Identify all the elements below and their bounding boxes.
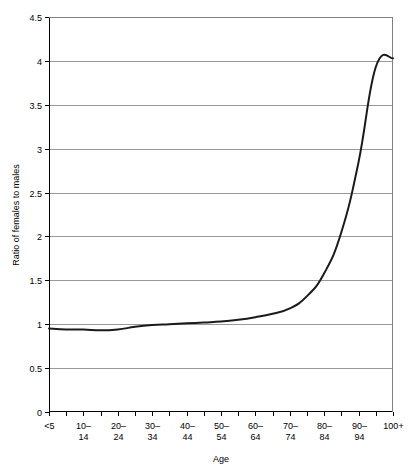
y-tick-label: 1.5 [29, 276, 42, 286]
x-tick-label-line2: 44 [182, 432, 192, 442]
y-axis-title: Ratio of females to males [11, 164, 21, 266]
x-tick-label: 70– [283, 421, 298, 431]
x-tick-label-line2: 54 [216, 432, 226, 442]
x-tick-label-line2: 84 [319, 432, 329, 442]
y-tick-label: 2.5 [29, 189, 42, 199]
y-tick-label: 3.5 [29, 101, 42, 111]
x-tick-label-line2: 74 [285, 432, 295, 442]
x-tick-label-line2: 14 [78, 432, 88, 442]
chart-container: 00.511.522.533.544.5 <510–1420–2430–3440… [0, 0, 413, 473]
y-tick-label: 1 [37, 320, 42, 330]
x-tick-label-line2: 64 [250, 432, 260, 442]
x-tick-label: 20– [111, 421, 126, 431]
y-tick-label: 4.5 [29, 13, 42, 23]
x-tick-label: 90– [352, 421, 367, 431]
x-tick-label: 80– [317, 421, 332, 431]
x-tick-label: 100+ [383, 421, 403, 431]
y-tick-label: 0.5 [29, 364, 42, 374]
ratio-of-females-to-males-line-chart: 00.511.522.533.544.5 <510–1420–2430–3440… [0, 0, 413, 473]
x-tick-label: <5 [44, 421, 54, 431]
x-tick-marks-group [50, 412, 394, 416]
y-tick-label: 3 [37, 145, 42, 155]
x-tick-label-line2: 34 [147, 432, 157, 442]
x-tick-label: 10– [76, 421, 91, 431]
x-axis-title: Age [213, 454, 229, 464]
x-tick-label-line2: 94 [354, 432, 364, 442]
y-tick-label: 2 [37, 232, 42, 242]
y-tick-label: 0 [37, 408, 42, 418]
x-tick-label: 60– [248, 421, 263, 431]
y-tick-label: 4 [37, 57, 42, 67]
x-tick-label: 30– [145, 421, 160, 431]
x-tick-label: 40– [180, 421, 195, 431]
x-tick-label-line2: 24 [113, 432, 123, 442]
x-tick-label: 50– [214, 421, 229, 431]
